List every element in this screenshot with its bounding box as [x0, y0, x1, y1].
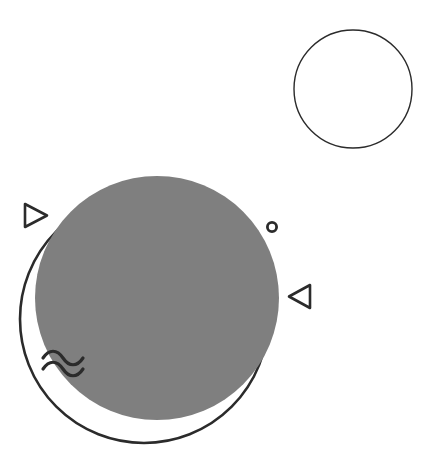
abstract-composition [0, 0, 440, 465]
filled-circle-gray [35, 176, 279, 420]
illustration-canvas [0, 0, 440, 465]
